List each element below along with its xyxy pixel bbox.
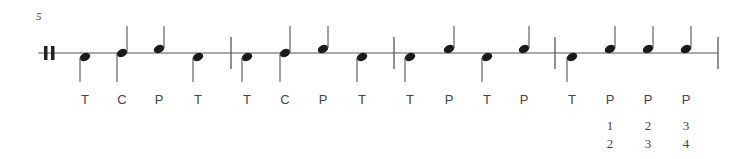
- note-high: [603, 26, 616, 55]
- note-high: [442, 26, 455, 55]
- note-mid: [115, 26, 128, 82]
- note-label: T: [358, 92, 366, 107]
- note-labels: TCPTTCPTTPTPTP12P23P34: [81, 92, 690, 151]
- note-low: [565, 51, 578, 82]
- note-high: [152, 26, 165, 55]
- measure-number: 5: [36, 10, 42, 22]
- note-label: C: [280, 92, 289, 107]
- note-low: [480, 51, 493, 82]
- fingering-number: 1: [607, 118, 614, 133]
- notes: [78, 26, 692, 82]
- note-label: T: [194, 92, 202, 107]
- fingering-number: 2: [645, 118, 652, 133]
- note-label: T: [243, 92, 251, 107]
- note-high: [679, 26, 692, 55]
- note-mid: [278, 26, 291, 82]
- note-label: P: [606, 92, 615, 107]
- note-low: [78, 51, 91, 82]
- note-low: [355, 51, 368, 82]
- note-high: [641, 26, 654, 55]
- fingering-number: 4: [683, 136, 690, 151]
- note-label: T: [406, 92, 414, 107]
- note-low: [403, 51, 416, 82]
- note-label: P: [682, 92, 691, 107]
- note-high: [316, 26, 329, 55]
- start-barline-thick: [44, 46, 48, 60]
- fingering-number: 2: [607, 136, 614, 151]
- note-label: P: [520, 92, 529, 107]
- staff: [38, 37, 718, 69]
- note-low: [191, 51, 204, 82]
- note-low: [240, 51, 253, 82]
- fingering-number: 3: [683, 118, 690, 133]
- note-label: P: [445, 92, 454, 107]
- note-high: [517, 26, 530, 55]
- note-label: C: [117, 92, 126, 107]
- note-label: T: [483, 92, 491, 107]
- start-barline-thick: [51, 46, 55, 60]
- note-label: P: [319, 92, 328, 107]
- note-label: T: [81, 92, 89, 107]
- note-label: P: [155, 92, 164, 107]
- note-label: T: [568, 92, 576, 107]
- rhythm-score: 5 TCPTTCPTTPTPTP12P23P34: [0, 0, 754, 159]
- fingering-number: 3: [645, 136, 652, 151]
- note-label: P: [644, 92, 653, 107]
